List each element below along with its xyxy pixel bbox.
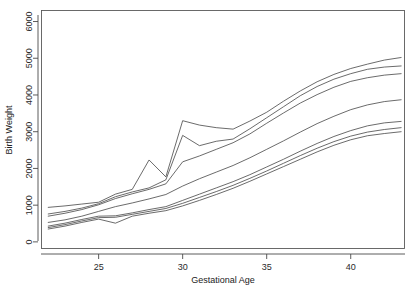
y-tick-label: 0 — [24, 239, 34, 244]
x-tick-label: 30 — [178, 262, 188, 272]
curve-curve-6-lower — [48, 128, 401, 228]
x-tick-label: 25 — [94, 262, 104, 272]
x-tick-group: 25303540 — [94, 254, 356, 272]
y-tick-label: 3000 — [24, 122, 34, 142]
y-tick-label: 1000 — [24, 195, 34, 215]
x-axis-title: Gestational Age — [191, 275, 255, 285]
plot-frame — [42, 11, 405, 249]
x-tick-label: 35 — [262, 262, 272, 272]
y-tick-label: 2000 — [24, 158, 34, 178]
chart-figure: 0100020003000400050006000 25303540 Gesta… — [0, 0, 416, 295]
y-axis: 0100020003000400050006000 — [24, 12, 38, 245]
y-tick-label: 4000 — [24, 85, 34, 105]
birth-weight-line-chart: 0100020003000400050006000 25303540 Gesta… — [0, 0, 416, 295]
y-tick-label: 5000 — [24, 48, 34, 68]
x-tick-label: 40 — [346, 262, 356, 272]
curve-curve-3-upper — [48, 74, 401, 217]
x-axis: 25303540 — [41, 254, 405, 272]
y-tick-group: 0100020003000400050006000 — [24, 12, 38, 245]
y-axis-title: Birth Weight — [4, 105, 14, 154]
data-curves — [48, 58, 401, 230]
y-tick-label: 6000 — [24, 12, 34, 32]
